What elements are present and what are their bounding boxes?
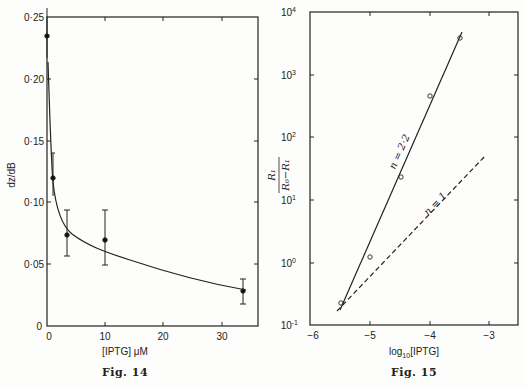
fig15-ytick-3: 103 <box>281 69 296 81</box>
fig14-ytick-020: 0·20 <box>24 74 44 85</box>
fig14-y-axis-label: dz/dB <box>6 162 17 188</box>
fig15-chart: 104 103 102 101 100 10-1 −6 −5 −4 −3 R₁ … <box>266 6 518 379</box>
fig15-label-n1: n = 1 <box>422 190 449 217</box>
fig14-ytick-010: 0·10 <box>24 197 44 208</box>
fig15-frame <box>310 12 518 325</box>
fig14-caption: Fig. 14 <box>102 366 148 379</box>
fig15-ytick-0: 100 <box>281 257 296 269</box>
fig14-ytick-025: 0·25 <box>24 12 44 23</box>
fig15-ytick-2: 102 <box>281 131 296 143</box>
fig15-caption: Fig. 15 <box>391 366 437 379</box>
fig15-ytick-1: 101 <box>281 194 296 206</box>
fig14-xtick-30: 30 <box>216 331 228 342</box>
svg-text:R₁: R₁ <box>266 169 277 182</box>
fig15-ytick-neg1: 10-1 <box>281 319 298 331</box>
fig15-x-axis-label: log10[IPTG] <box>389 346 439 359</box>
fig15-line-n1 <box>337 155 486 311</box>
fig15-ytick-4: 104 <box>281 6 296 18</box>
fig14-fit-curve <box>48 62 246 290</box>
fig14-ytick-0: 0 <box>36 321 42 332</box>
fig15-xtick-neg3: −3 <box>483 330 495 341</box>
fig15-y-axis-label: R₁ R₀−R₁ <box>266 157 291 193</box>
svg-text:R₀−R₁: R₀−R₁ <box>280 159 291 191</box>
fig15-ticks <box>310 12 518 325</box>
fig15-xtick-neg4: −4 <box>424 330 436 341</box>
fig14-x-axis-label: [IPTG] μM <box>102 346 148 357</box>
fig15-label-n2-2: n = 2·2 <box>387 132 412 170</box>
fig14-ytick-015: 0·15 <box>24 136 44 147</box>
fig14-xtick-20: 20 <box>157 331 169 342</box>
figure-canvas: 0 0·05 0·10 0·15 0·20 0·25 0 10 20 30 dz… <box>0 0 526 388</box>
fig14-y-ticks <box>47 17 258 326</box>
fig14-xtick-0: 0 <box>46 331 52 342</box>
fig14-xtick-10: 10 <box>99 331 111 342</box>
fig15-line-n2-2 <box>340 32 462 310</box>
fig15-xtick-neg6: −6 <box>307 330 319 341</box>
fig14-data-points <box>45 8 246 304</box>
fig15-xtick-neg5: −5 <box>364 330 376 341</box>
fig14-ytick-005: 0·05 <box>24 259 44 270</box>
fig14-frame <box>47 17 258 326</box>
fig15-data-points <box>339 36 462 305</box>
fig14-chart: 0 0·05 0·10 0·15 0·20 0·25 0 10 20 30 dz… <box>6 8 258 379</box>
